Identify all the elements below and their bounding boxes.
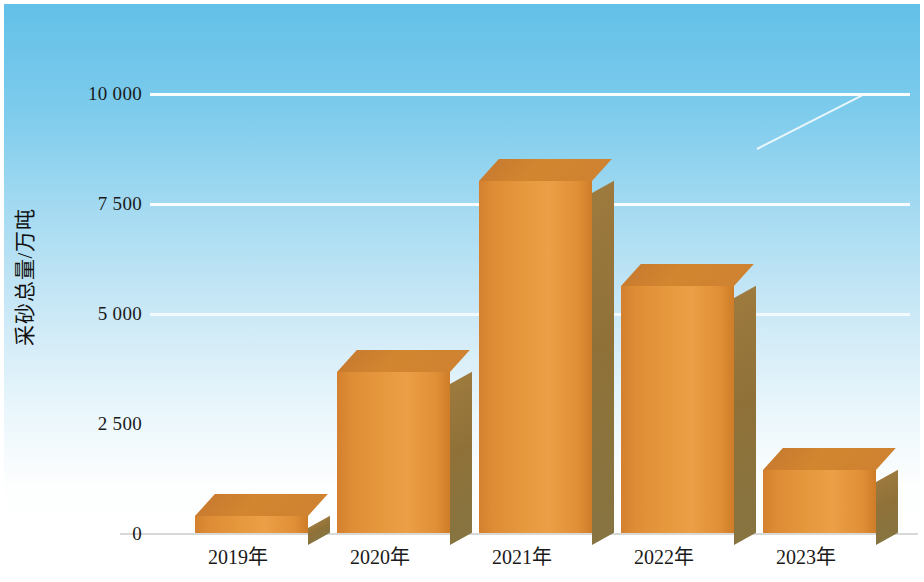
bar-2022 xyxy=(621,286,734,533)
x-tick-label-2019: 2019年 xyxy=(163,541,313,570)
y-tick-label-10000: 10 000 xyxy=(88,83,142,105)
x-tick-label-2023: 2023年 xyxy=(731,541,881,570)
bar-2021 xyxy=(479,181,592,533)
y-tick-label-0: 0 xyxy=(132,523,142,545)
y-axis-title: 采砂总量/万吨 xyxy=(8,162,38,392)
y-tick-label-2500: 2 500 xyxy=(98,413,142,435)
bar-2022-top-face xyxy=(621,264,754,286)
x-tick-label-2020: 2020年 xyxy=(305,541,455,570)
y-tick-label-5000: 5 000 xyxy=(98,303,142,325)
bar-2020-side-face xyxy=(450,372,472,545)
gridline-10000 xyxy=(150,93,910,96)
bar-2023-top-face xyxy=(763,448,896,470)
x-tick-label-2021: 2021年 xyxy=(447,541,597,570)
bar-2019-top-face xyxy=(195,494,328,516)
bar-2021-top-face xyxy=(479,159,612,181)
bar-2021-front-face xyxy=(479,181,592,533)
y-tick-label-7500: 7 500 xyxy=(98,193,142,215)
bar-2022-front-face xyxy=(621,286,734,533)
bar-2023-side-face xyxy=(876,470,898,545)
bar-2019-front-face xyxy=(195,516,308,533)
bar-2023 xyxy=(763,470,876,533)
bar-2020-front-face xyxy=(337,372,450,533)
x-tick-label-2022: 2022年 xyxy=(589,541,739,570)
axis-baseline xyxy=(120,533,918,535)
bar-2023-front-face xyxy=(763,470,876,533)
bar-2022-side-face xyxy=(734,286,756,545)
bar-2021-side-face xyxy=(592,181,614,545)
bar-2020 xyxy=(337,372,450,533)
bar-2019 xyxy=(195,516,308,533)
bar-chart: 10 000 7 500 5 000 2 500 0 采砂总量/万吨 xyxy=(0,0,924,582)
bar-2020-top-face xyxy=(337,350,470,372)
